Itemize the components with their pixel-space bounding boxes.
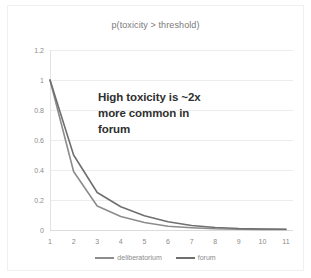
x-axis-tick-label: 8	[205, 238, 225, 245]
x-axis-tick-label: 7	[182, 238, 202, 245]
chart-annotation: High toxicity is ~2x more common in foru…	[98, 89, 248, 137]
chart-legend: deliberatorium forum	[8, 254, 303, 261]
x-axis-tick-label: 3	[87, 238, 107, 245]
x-axis-tick-label: 11	[276, 238, 296, 245]
y-axis-tick-label: 1.2	[16, 47, 44, 54]
x-axis-tick-label: 6	[158, 238, 178, 245]
legend-label: forum	[198, 254, 216, 261]
x-axis-tick-label: 2	[64, 238, 84, 245]
x-axis-tick-label: 5	[134, 238, 154, 245]
y-axis-tick-label: 0	[16, 227, 44, 234]
annotation-line-2: more common in	[98, 105, 248, 121]
annotation-line-1: High toxicity is ~2x	[98, 89, 248, 105]
x-axis-tick-label: 4	[111, 238, 131, 245]
plot-area: 00.20.40.60.811.21234567891011	[43, 44, 293, 234]
annotation-line-3: forum	[98, 121, 248, 137]
y-axis-tick-label: 0.8	[16, 107, 44, 114]
x-axis-tick-label: 9	[229, 238, 249, 245]
legend-line-icon	[176, 257, 195, 259]
x-axis-tick-label: 10	[252, 238, 272, 245]
legend-item-deliberatorium[interactable]: deliberatorium	[95, 254, 161, 261]
y-axis-tick-label: 0.6	[16, 137, 44, 144]
y-axis-tick-label: 0.2	[16, 197, 44, 204]
chart-title: p(toxicity > threshold)	[8, 20, 303, 30]
y-axis-tick-label: 0.4	[16, 167, 44, 174]
chart-card: p(toxicity > threshold) 00.20.40.60.811.…	[7, 5, 304, 271]
x-axis-tick-label: 1	[40, 238, 60, 245]
y-axis-tick-label: 1	[16, 77, 44, 84]
series-group	[43, 44, 293, 234]
legend-label: deliberatorium	[117, 254, 161, 261]
legend-item-forum[interactable]: forum	[176, 254, 216, 261]
legend-line-icon	[95, 257, 114, 259]
